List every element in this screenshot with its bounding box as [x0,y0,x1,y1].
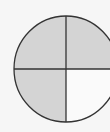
fraction-circle [14,16,110,122]
quadrant-top-left [14,16,66,69]
quadrant-top-right [66,16,110,69]
fraction-circle-diagram [0,0,110,132]
quadrant-bottom-left [14,69,66,122]
quadrant-bottom-right [66,69,110,122]
